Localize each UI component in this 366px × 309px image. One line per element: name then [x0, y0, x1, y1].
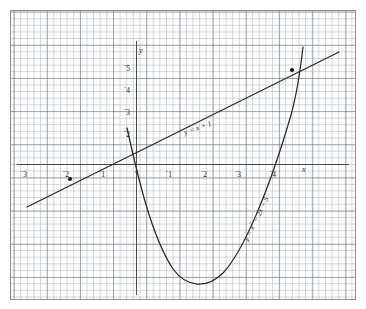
x-tick-label--2: -2 [63, 168, 69, 178]
x-tick-label-3: -3 [235, 168, 241, 178]
y-tick-label-2: -2 [124, 128, 130, 138]
graph-paper-sheet: -3 -2 -1 -1 -2 -3 -4 x -5 -4 -3 [10, 10, 356, 300]
x-tick-label-1: -1 [166, 168, 172, 178]
x-axis-name: x [302, 166, 306, 174]
intersection-point-right [290, 68, 294, 72]
x-tick-label--3: -3 [21, 168, 27, 178]
y-tick-label-4: -4 [124, 84, 130, 94]
plot-svg [11, 11, 355, 299]
x-tick-label--1: -1 [99, 168, 105, 178]
x-tick-label-2: -2 [201, 168, 207, 178]
plot-layer [11, 11, 355, 299]
x-tick-label-4: -4 [270, 168, 276, 178]
y-tick-label-3: -3 [124, 106, 130, 116]
figure-canvas: -3 -2 -1 -1 -2 -3 -4 x -5 -4 -3 [0, 0, 366, 309]
y-tick-label-5: -5 [124, 62, 130, 72]
y-axis-name: y [139, 47, 143, 55]
origin-label: o [135, 167, 138, 174]
